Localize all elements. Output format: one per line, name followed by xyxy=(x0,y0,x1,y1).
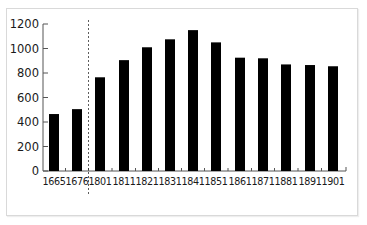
bar-1831 xyxy=(165,39,175,171)
x-tick-label: 1871 xyxy=(251,176,274,187)
bar-1871 xyxy=(258,58,268,171)
bar-1851 xyxy=(211,42,221,171)
bars xyxy=(49,30,338,171)
y-tick-label: 600 xyxy=(17,91,39,105)
y-tick-label: 800 xyxy=(17,66,39,80)
bar-1801 xyxy=(95,77,105,171)
y-tick-label: 1200 xyxy=(10,17,39,31)
y-axis: 020040060080010001200 xyxy=(10,17,48,178)
x-tick-label: 1881 xyxy=(274,176,297,187)
bar-1676 xyxy=(72,109,82,171)
x-tick-label: 1891 xyxy=(298,176,321,187)
bar-1841 xyxy=(188,30,198,171)
x-tick-label: 1665 xyxy=(42,176,65,187)
y-tick-label: 400 xyxy=(17,115,39,129)
x-tick-label: 1841 xyxy=(181,176,204,187)
bar-1891 xyxy=(305,65,315,171)
bar-1665 xyxy=(49,114,59,171)
bar-chart: 020040060080010001200 166516761801181118… xyxy=(0,0,367,225)
bar-1861 xyxy=(235,58,245,171)
y-tick-label: 1000 xyxy=(10,42,39,56)
x-tick-label: 1676 xyxy=(65,176,88,187)
x-tick-label: 1801 xyxy=(88,176,111,187)
x-tick-label: 1851 xyxy=(204,176,227,187)
bar-1821 xyxy=(142,47,152,171)
bar-1881 xyxy=(281,64,291,171)
y-tick-label: 200 xyxy=(17,140,39,154)
x-tick-label: 1821 xyxy=(135,176,158,187)
x-tick-label: 1831 xyxy=(158,176,181,187)
y-tick-label: 0 xyxy=(32,164,39,178)
x-tick-label: 1861 xyxy=(228,176,251,187)
x-tick-label: 1901 xyxy=(321,176,344,187)
bar-1901 xyxy=(328,66,338,171)
x-tick-label: 1811 xyxy=(112,176,135,187)
bar-1811 xyxy=(119,60,129,171)
